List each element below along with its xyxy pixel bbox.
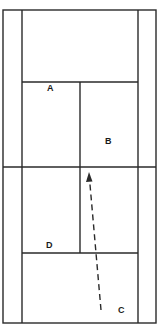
label-c: C bbox=[118, 305, 125, 315]
tennis-court-diagram: A B D C bbox=[0, 0, 161, 326]
label-a: A bbox=[47, 83, 54, 93]
arrowhead-icon bbox=[86, 172, 93, 182]
label-b: B bbox=[105, 136, 112, 146]
shot-path-dashed-line bbox=[90, 180, 101, 310]
label-d: D bbox=[46, 240, 53, 250]
